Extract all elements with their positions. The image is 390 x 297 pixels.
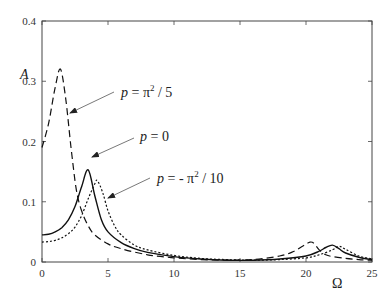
plot-frame [42,21,372,262]
x-tick-label: 25 [367,267,379,279]
data-series [42,69,372,260]
x-tick-label: 5 [105,267,111,279]
y-axis-ticks: 00.10.20.30.4 [22,15,372,268]
y-tick-label: 0.1 [22,196,36,208]
x-axis-ticks: 0510152025 [39,21,378,279]
x-tick-label: 20 [301,267,313,279]
y-tick-label: 0 [31,256,37,268]
y-tick-label: 0.4 [22,15,36,27]
x-tick-label: 15 [235,267,247,279]
annotation-arrow-solid [92,138,134,157]
series-line-dashed [42,69,372,260]
annotation-label-solid: p = 0 [139,129,169,144]
x-tick-label: 10 [169,267,181,279]
y-tick-label: 0.2 [22,136,36,148]
x-axis-label: Ω [332,276,342,291]
resonance-amplitude-chart: 0510152025 00.10.20.30.4 A Ω p = π2 / 5 … [0,0,390,297]
x-tick-label: 0 [39,267,45,279]
annotation-arrow-dashed [70,92,114,113]
annotation-arrow-dotted [108,178,150,198]
annotation-label-dashed: p = π2 / 5 [120,83,172,100]
series-line-dotted [42,180,372,260]
annotation-label-dotted: p = - π2 / 10 [156,169,224,186]
y-axis-label: A [19,67,29,82]
